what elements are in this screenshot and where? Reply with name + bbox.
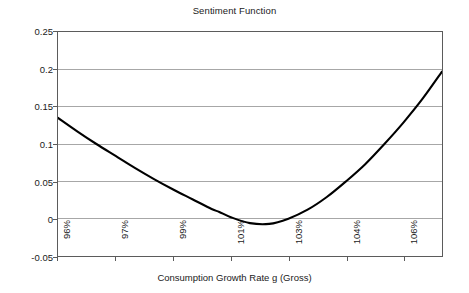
y-axis-tick-label: 0.1 — [0, 139, 53, 150]
x-axis-tick-label: 106% — [408, 220, 419, 244]
y-axis-tick-labels: 0.25 0.2 0.15 0.1 0.05 0 -0.05 — [0, 31, 53, 257]
x-axis-tick-label: 97% — [119, 220, 130, 239]
x-axis-title: Consumption Growth Rate g (Gross) — [0, 272, 469, 283]
y-axis-tick-label: 0.2 — [0, 63, 53, 74]
x-axis-tick-label: 103% — [293, 220, 304, 244]
y-axis-tick-label: 0.15 — [0, 101, 53, 112]
sentiment-function-chart: Sentiment Function 0.25 0.2 0.15 0.1 0.0… — [0, 0, 469, 293]
y-axis-tick-label: 0.05 — [0, 176, 53, 187]
x-axis-tick-label: 101% — [235, 220, 246, 244]
x-axis-tick-label: 96% — [61, 220, 72, 239]
y-axis-tick-label: -0.05 — [0, 252, 53, 263]
x-axis-tick-label: 104% — [351, 220, 362, 244]
x-axis-tick-label: 99% — [177, 220, 188, 239]
y-axis-tick-label: 0.25 — [0, 26, 53, 37]
y-axis-tick-label: 0 — [0, 214, 53, 225]
chart-title: Sentiment Function — [0, 5, 469, 16]
x-axis-tick-labels: 96% 97% 99% 101% 103% 104% 106% — [57, 220, 443, 266]
